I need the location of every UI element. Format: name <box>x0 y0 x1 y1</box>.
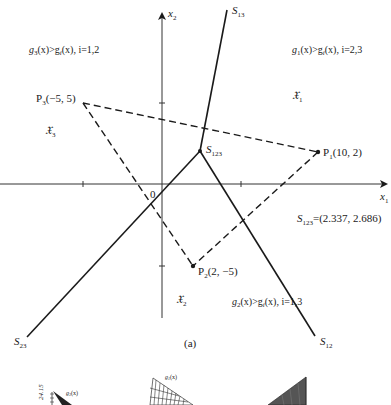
boundary-s12-label: S12 <box>320 335 333 350</box>
x1-axis-label: x1 <box>379 190 389 205</box>
point-p3-label: P3(−5, 5) <box>36 92 76 107</box>
surface-plot-right <box>268 377 306 405</box>
region-x1-symbol: 𝔛1 <box>292 89 303 104</box>
x2-axis-label: x2 <box>167 7 177 22</box>
boundary-s23-label: S23 <box>14 335 27 350</box>
decision-regions-diagram: x2 x1 0 P1(10, 2) P2(2, −5) P3(−5, 5) S1… <box>0 0 391 405</box>
panel-caption: (a) <box>184 337 197 350</box>
surface-plot-middle: g1(x) <box>150 374 193 405</box>
region-x3-condition: g3(x)>gi(x), i=1,2 <box>29 44 99 57</box>
region-x2-condition: g2(x)>gi(x), i=1,3 <box>232 296 302 309</box>
region-x2-symbol: 𝔛2 <box>176 293 187 308</box>
junction-s123 <box>198 149 202 153</box>
surface-left-axis-value: 24.15 <box>37 384 45 400</box>
point-p2 <box>191 264 195 268</box>
junction-value-label: S123=(2.337, 2.686) <box>297 212 382 227</box>
surface-middle-func-label: g1(x) <box>165 374 177 381</box>
surface-left-func-label: g3(x) <box>66 390 78 397</box>
boundary-s23 <box>27 151 200 337</box>
boundary-s13-label: S13 <box>232 4 245 19</box>
junction-s123-label: S123 <box>206 143 223 158</box>
surface-plot-left: 24.15 g3(x) <box>37 384 78 405</box>
point-p2-label: P2(2, −5) <box>198 265 238 280</box>
point-p1-label: P1(10, 2) <box>323 146 362 161</box>
region-x3-symbol: 𝔛3 <box>45 124 56 139</box>
region-x1-condition: g1(x)>gi(x), i=2,3 <box>292 44 362 57</box>
point-p1 <box>316 150 320 154</box>
